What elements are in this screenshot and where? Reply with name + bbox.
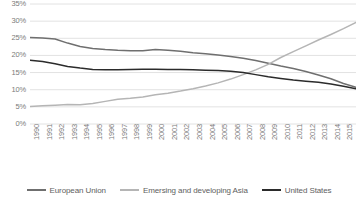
x-axis-tick-label: 2013	[321, 124, 329, 140]
series-line	[30, 23, 356, 107]
y-axis-tick-label: 20%	[0, 51, 26, 59]
legend-swatch-icon	[120, 189, 139, 191]
plot-area: 0%5%10%15%20%25%30%35% 19901991199219931…	[0, 0, 358, 132]
y-axis-tick-label: 5%	[0, 103, 26, 111]
series-lines	[30, 23, 356, 107]
y-axis-tick-label: 25%	[0, 34, 26, 42]
legend-label: United States	[285, 186, 332, 195]
y-axis-tick-label: 35%	[0, 0, 26, 8]
x-axis-tick-label: 1995	[96, 124, 104, 140]
y-axis: 0%5%10%15%20%25%30%35%	[0, 0, 28, 132]
x-axis-tick-label: 1993	[71, 124, 79, 140]
legend-label: European Union	[50, 186, 106, 195]
x-axis-tick-label: 1991	[46, 124, 54, 140]
x-axis-tick-label: 2014	[334, 124, 342, 140]
x-axis-tick-label: 2015	[346, 124, 354, 140]
x-axis-tick-label: 2012	[309, 124, 317, 140]
legend-swatch-icon	[262, 189, 281, 191]
x-axis-tick-label: 1990	[33, 124, 41, 140]
series-line	[30, 60, 356, 88]
x-axis-tick-label: 2010	[284, 124, 292, 140]
x-axis-tick-label: 2011	[296, 124, 304, 139]
x-axis-tick-label: 1997	[121, 124, 129, 140]
x-axis-tick-label: 2004	[209, 124, 217, 140]
x-axis-tick-label: 1998	[133, 124, 141, 140]
y-axis-tick-label: 30%	[0, 17, 26, 25]
x-axis-tick-label: 1999	[146, 124, 154, 140]
x-axis: 1990199119921993199419951996199719981999…	[30, 124, 356, 178]
legend-item[interactable]: Emersing and developing Asia	[120, 186, 248, 195]
x-axis-tick-label: 2001	[171, 124, 179, 140]
y-axis-tick-label: 15%	[0, 69, 26, 77]
x-axis-tick-label: 2003	[196, 124, 204, 140]
x-axis-tick-label: 1996	[108, 124, 116, 140]
gridlines	[30, 4, 356, 124]
legend-item[interactable]: European Union	[27, 186, 106, 195]
legend-label: Emersing and developing Asia	[143, 186, 248, 195]
x-axis-tick-label: 1992	[58, 124, 66, 140]
x-axis-tick-label: 2007	[246, 124, 254, 140]
plot-canvas	[30, 0, 356, 132]
x-axis-tick-label: 2005	[221, 124, 229, 140]
x-axis-tick-label: 2009	[271, 124, 279, 140]
x-axis-tick-label: 2002	[183, 124, 191, 140]
y-axis-tick-label: 0%	[0, 120, 26, 128]
x-axis-tick-label: 2008	[259, 124, 267, 140]
x-axis-tick-label: 2000	[158, 124, 166, 140]
y-axis-tick-label: 10%	[0, 86, 26, 94]
chart-legend: European UnionEmersing and developing As…	[0, 182, 358, 198]
x-axis-tick-label: 2006	[234, 124, 242, 140]
legend-item[interactable]: United States	[262, 186, 332, 195]
x-axis-tick-label: 1994	[83, 124, 91, 140]
legend-swatch-icon	[27, 189, 46, 191]
line-chart: 0%5%10%15%20%25%30%35% 19901991199219931…	[0, 0, 358, 207]
